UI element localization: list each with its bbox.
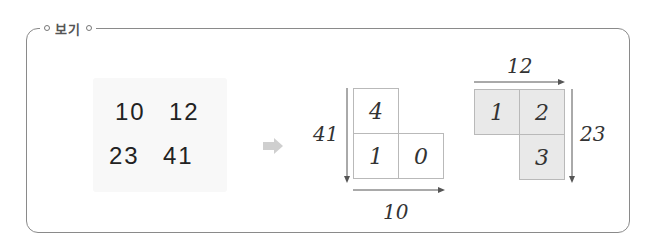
right-diagram-arrows	[0, 0, 651, 249]
